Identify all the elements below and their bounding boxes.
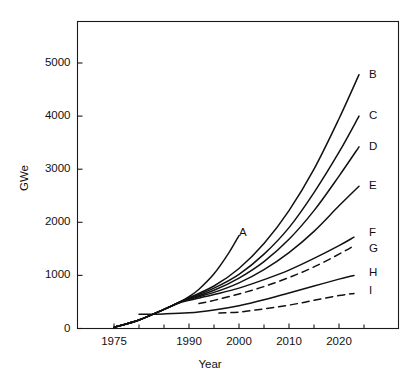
curve-I [219,293,354,313]
x-tick-label: 1990 [176,335,202,347]
x-axis-title: Year [198,358,221,370]
curve-H [139,275,354,314]
y-axis-tick-labels: 010002000300040005000 [45,56,71,334]
line-chart: 010002000300040005000 197519902000201020… [0,0,417,382]
curve-label-H: H [369,266,377,278]
y-tick-label: 3000 [45,162,71,174]
curve-label-I: I [369,284,372,296]
curve-D [114,147,359,328]
chart-container: 010002000300040005000 197519902000201020… [0,0,417,382]
curve-label-G: G [369,242,378,254]
y-tick-label: 0 [64,322,70,334]
x-tick-label: 2000 [226,335,252,347]
curve-label-B: B [369,68,377,80]
curve-C [114,116,359,327]
curve-label-C: C [369,109,377,121]
y-tick-label: 1000 [45,268,71,280]
y-tick-label: 4000 [45,109,71,121]
y-axis-title: GWe [18,165,30,191]
plot-frame [78,22,399,329]
series-end-labels: ABCDEFGHI [239,68,378,297]
curve-label-D: D [369,140,377,152]
curve-label-E: E [369,179,377,191]
curve-label-A: A [239,226,247,238]
x-tick-label: 2010 [276,335,302,347]
x-axis-ticks [114,324,364,329]
y-tick-label: 5000 [45,56,71,68]
x-tick-label: 1975 [101,335,127,347]
y-tick-label: 2000 [45,215,71,227]
x-tick-label: 2020 [326,335,352,347]
data-curves [114,75,359,328]
y-axis-ticks [78,63,83,329]
curve-label-F: F [369,226,376,238]
x-axis-tick-labels: 19751990200020102020 [101,335,352,347]
